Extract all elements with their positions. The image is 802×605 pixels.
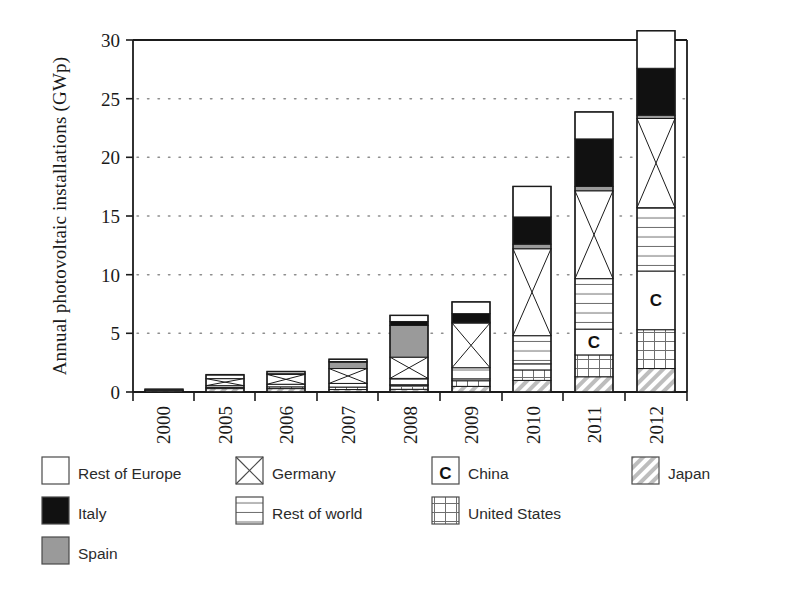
stacked-bar-chart: 30 25 20 15 10 5 0 2000 2005 (0, 0, 802, 605)
bar-2010 (513, 186, 551, 392)
x-tick-label-2009: 2009 (461, 406, 482, 444)
bar-2012: C (637, 31, 675, 392)
bar-segment-rest-of-europe (513, 186, 551, 217)
legend-label: Rest of Europe (78, 465, 181, 482)
bar-series-group: CC (145, 31, 675, 392)
bar-segment-united-states (637, 330, 675, 369)
y-axis-ticks: 30 25 20 15 10 5 0 (101, 30, 133, 403)
x-tick-label-2007: 2007 (338, 406, 359, 444)
bar-segment-japan (513, 380, 551, 392)
y-tick-label-25: 25 (101, 89, 120, 110)
bar-2005 (206, 375, 244, 392)
bar-segment-japan (575, 377, 613, 392)
legend-label: China (468, 465, 509, 482)
chart-page: Annual photovoltaic installations (GWp) (0, 0, 802, 605)
y-tick-label-15: 15 (101, 206, 120, 227)
bar-segment-spain (513, 244, 551, 249)
china-marker: C (650, 291, 662, 310)
bar-segment-spain (390, 325, 428, 357)
x-tick-label-2010: 2010 (523, 406, 544, 444)
legend-swatch-solid-white (42, 457, 69, 484)
bar-segment-united-states (452, 381, 490, 387)
bar-segment-rest-of-world (575, 279, 613, 329)
bar-segment-italy (513, 217, 551, 244)
bar-segment-united-states (390, 385, 428, 389)
legend-swatch-solid-black (42, 497, 69, 524)
china-marker: C (588, 333, 600, 352)
legend-item-united-states[interactable]: United States (432, 497, 561, 524)
legend-item-rest-of-world[interactable]: Rest of world (236, 497, 362, 524)
y-tick-label-5: 5 (111, 323, 121, 344)
bar-segment-rest-of-world (513, 336, 551, 364)
bar-segment-japan (637, 369, 675, 392)
bar-segment-italy (637, 68, 675, 115)
legend-swatch-diagonal-hatch (632, 457, 659, 484)
legend-item-china[interactable]: CChina (432, 457, 509, 484)
legend-item-italy[interactable]: Italy (42, 497, 107, 524)
bar-segment-rest-of-world (329, 383, 367, 387)
bar-2011: C (575, 112, 613, 392)
bar-segment-spain (329, 362, 367, 368)
legend-label: United States (468, 505, 561, 522)
legend-item-spain[interactable]: Spain (42, 537, 118, 564)
legend-swatch-grid (432, 497, 459, 524)
x-tick-label-2008: 2008 (400, 406, 421, 444)
x-tick-label-2000: 2000 (153, 406, 174, 444)
x-tick-label-2011: 2011 (584, 406, 605, 443)
y-tick-label-0: 0 (111, 382, 121, 403)
bar-2008 (390, 315, 428, 392)
bar-segment-italy (575, 139, 613, 187)
legend-swatch-horizontal-lines (236, 497, 263, 524)
bar-segment-italy (390, 321, 428, 325)
bar-segment-rest-of-world (452, 368, 490, 379)
bar-2000 (145, 389, 183, 392)
legend-item-germany[interactable]: Germany (236, 457, 336, 484)
bar-segment-united-states (513, 370, 551, 380)
bar-segment-japan (452, 386, 490, 392)
legend: Rest of EuropeItalySpainGermanyRest of w… (42, 457, 710, 564)
x-tick-label-2012: 2012 (646, 406, 667, 444)
y-tick-label-20: 20 (101, 147, 120, 168)
bar-segment-rest-of-europe (452, 302, 490, 314)
x-tick-label-2005: 2005 (215, 406, 236, 444)
legend-label: Rest of world (272, 505, 362, 522)
x-tick-label-2006: 2006 (276, 406, 297, 444)
legend-label: Spain (78, 545, 118, 562)
bar-2007 (329, 359, 367, 392)
bar-2009 (452, 302, 490, 392)
bar-2006 (267, 371, 305, 392)
bar-segment-spain (575, 186, 613, 190)
x-axis: 2000 2005 2006 2007 2008 2009 2010 2011 … (133, 392, 687, 444)
bar-segment-united-states (575, 355, 613, 377)
y-tick-label-30: 30 (101, 30, 120, 51)
bar-segment-rest-of-europe (390, 315, 428, 321)
china-marker: C (439, 464, 451, 483)
legend-item-japan[interactable]: Japan (632, 457, 710, 484)
bar-segment-italy (452, 314, 490, 323)
y-tick-label-10: 10 (101, 265, 120, 286)
bar-segment-rest-of-europe (575, 112, 613, 139)
bar-segment-china (513, 364, 551, 370)
legend-label: Japan (668, 465, 710, 482)
bar-segment-rest-of-europe (637, 31, 675, 69)
legend-item-rest-of-europe[interactable]: Rest of Europe (42, 457, 181, 484)
legend-swatch-solid-gray (42, 537, 69, 564)
bar-segment-rest-of-europe (206, 375, 244, 379)
bar-segment-rest-of-world (390, 378, 428, 384)
legend-label: Germany (272, 465, 336, 482)
bar-segment-rest-of-world (637, 208, 675, 271)
legend-label: Italy (78, 505, 107, 522)
